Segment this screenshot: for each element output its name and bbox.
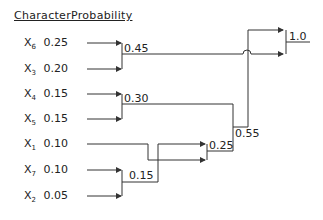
node-label-030: 0.30: [124, 93, 149, 105]
node-label-055: 0.55: [235, 128, 260, 140]
node-label-025: 0.25: [209, 140, 234, 152]
node-label-015: 0.15: [129, 170, 154, 182]
node-label-root: 1.0: [289, 31, 307, 43]
huffman-tree-lines: [0, 0, 323, 220]
node-label-045: 0.45: [124, 43, 149, 55]
